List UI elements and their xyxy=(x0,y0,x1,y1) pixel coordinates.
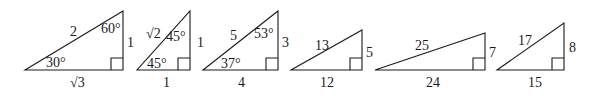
triangle-4: 13 5 12 xyxy=(291,30,373,90)
triangle-2-angle-top-label: 45° xyxy=(166,29,186,44)
triangle-6: 17 8 15 xyxy=(497,23,576,90)
triangle-3-right-angle-marker xyxy=(266,58,278,70)
triangle-2: √2 1 1 45° 45° xyxy=(137,11,204,90)
triangle-2-base-label: 1 xyxy=(163,75,170,90)
triangle-4-hypotenuse-label: 13 xyxy=(315,38,329,53)
triangle-3-base-label: 4 xyxy=(238,75,245,90)
triangle-3-hypotenuse-label: 5 xyxy=(230,28,237,43)
triangle-3-angle-top-label: 53° xyxy=(254,26,274,41)
triangle-1-right-angle-marker xyxy=(111,58,123,70)
triangle-1-angle-top-label: 60° xyxy=(101,21,121,36)
triangle-5-right-angle-marker xyxy=(473,58,485,70)
triangle-1-outline xyxy=(25,11,123,70)
triangle-5-outline xyxy=(375,33,485,70)
triangle-1-angle-left-label: 30° xyxy=(46,55,66,70)
triangle-6-base-label: 15 xyxy=(528,75,542,90)
triangle-6-vertical-label: 8 xyxy=(569,40,576,55)
triangles-diagram: 2 1 √3 60° 30° √2 1 1 45° 45° 5 3 4 53° … xyxy=(0,0,594,98)
triangle-2-angle-left-label: 45° xyxy=(147,56,167,71)
triangle-6-right-angle-marker xyxy=(552,58,564,70)
triangle-6-hypotenuse-label: 17 xyxy=(518,33,532,48)
triangle-4-base-label: 12 xyxy=(320,75,334,90)
triangle-2-right-angle-marker xyxy=(178,58,190,70)
triangle-3: 5 3 4 53° 37° xyxy=(203,11,289,90)
triangle-3-vertical-label: 3 xyxy=(282,35,289,50)
triangle-2-vertical-label: 1 xyxy=(197,35,204,50)
triangle-2-hypotenuse-label: √2 xyxy=(146,26,161,41)
triangle-5-hypotenuse-label: 25 xyxy=(415,38,429,53)
triangle-1-vertical-label: 1 xyxy=(127,35,134,50)
triangle-5: 25 7 24 xyxy=(375,33,496,90)
triangle-4-vertical-label: 5 xyxy=(366,45,373,60)
triangle-5-base-label: 24 xyxy=(426,75,440,90)
triangle-4-right-angle-marker xyxy=(350,58,362,70)
triangle-5-vertical-label: 7 xyxy=(489,45,496,60)
triangle-3-angle-left-label: 37° xyxy=(221,56,241,71)
triangle-1: 2 1 √3 60° 30° xyxy=(25,11,134,90)
triangle-1-base-label: √3 xyxy=(70,75,85,90)
triangle-1-hypotenuse-label: 2 xyxy=(70,24,77,39)
